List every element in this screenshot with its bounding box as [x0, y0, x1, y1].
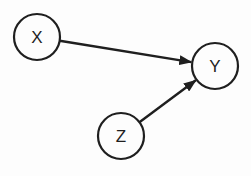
node-Y: Y [192, 43, 238, 89]
node-X: X [14, 14, 60, 60]
diagram-stage: XYZ [0, 0, 251, 176]
causal-graph: XYZ [0, 0, 251, 176]
node-label-X: X [31, 28, 42, 47]
edge-Z-to-Y [139, 80, 195, 122]
node-Z: Z [98, 113, 144, 159]
node-label-Z: Z [116, 127, 126, 146]
node-label-Y: Y [209, 57, 220, 76]
edge-X-to-Y [60, 41, 192, 62]
